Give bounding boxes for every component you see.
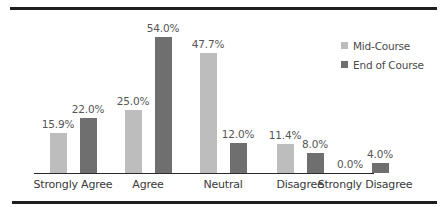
bar-mid-course-neutral	[200, 53, 217, 173]
value-label-end-of-course-neutral: 12.0%	[222, 128, 254, 140]
value-label-mid-course-strongly-agree: 15.9%	[42, 118, 74, 130]
category-label-strongly-agree: Strongly Agree	[34, 178, 113, 191]
category-label-agree: Agree	[132, 178, 163, 191]
legend-label-mid-course: Mid-Course	[353, 40, 410, 52]
value-label-end-of-course-strongly-agree: 22.0%	[72, 103, 104, 115]
value-label-end-of-course-disagree: 8.0%	[302, 138, 328, 150]
bar-chart: 15.9%22.0%Strongly Agree25.0%54.0%Agree4…	[0, 0, 447, 207]
category-label-disagree: Disagree	[276, 178, 323, 191]
value-label-end-of-course-agree: 54.0%	[147, 22, 179, 34]
category-label-neutral: Neutral	[203, 178, 242, 191]
bar-end-of-course-agree	[155, 37, 172, 173]
value-label-mid-course-strongly-disagree: 0.0%	[337, 158, 363, 170]
legend-label-end-of-course: End of Course	[353, 59, 424, 71]
value-label-mid-course-disagree: 11.4%	[269, 129, 301, 141]
legend-swatch-end-of-course	[341, 61, 348, 68]
x-axis-line	[34, 173, 374, 174]
value-label-mid-course-neutral: 47.7%	[192, 38, 224, 50]
legend: Mid-Course End of Course	[341, 36, 424, 74]
legend-item-end-of-course: End of Course	[341, 55, 424, 74]
legend-item-mid-course: Mid-Course	[341, 36, 424, 55]
bar-end-of-course-disagree	[307, 153, 324, 173]
bar-end-of-course-neutral	[230, 143, 247, 173]
bar-mid-course-disagree	[277, 144, 294, 173]
category-label-strongly-disagree: Strongly Disagree	[318, 178, 413, 191]
bar-end-of-course-strongly-agree	[80, 118, 97, 173]
bar-mid-course-agree	[125, 110, 142, 173]
value-label-mid-course-agree: 25.0%	[117, 95, 149, 107]
bottom-rule	[12, 201, 437, 204]
legend-swatch-mid-course	[341, 42, 348, 49]
bar-end-of-course-strongly-disagree	[372, 163, 389, 173]
bar-mid-course-strongly-agree	[50, 133, 67, 173]
value-label-end-of-course-strongly-disagree: 4.0%	[367, 148, 393, 160]
